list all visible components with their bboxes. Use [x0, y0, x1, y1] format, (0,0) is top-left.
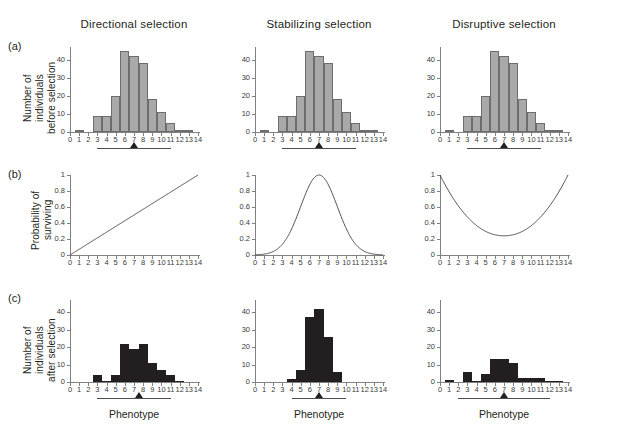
y-tick-label: 10: [416, 361, 435, 369]
x-tick-label: 14: [378, 136, 388, 144]
plot-b3: 0123456789101112131400.20.40.60.81: [440, 175, 568, 255]
plot-c1: 01234567891011121314010203040: [70, 300, 198, 382]
y-tick-label: 0.4: [231, 219, 250, 227]
y-tick: [67, 132, 70, 133]
bar: [287, 379, 296, 382]
bar: [545, 381, 554, 382]
bar: [499, 359, 508, 382]
y-tick: [67, 312, 70, 313]
bar: [527, 378, 536, 382]
ylabel-line: Number of: [22, 300, 34, 400]
bar: [518, 99, 527, 132]
bar: [296, 96, 305, 132]
bar: [120, 51, 129, 132]
bar: [342, 112, 351, 132]
y-tick-label: 10: [46, 110, 65, 118]
y-axis: [255, 300, 256, 382]
bar: [148, 363, 157, 382]
bar: [333, 99, 342, 132]
x-tick-label: 14: [193, 259, 203, 267]
y-tick: [67, 60, 70, 61]
bar: [157, 370, 166, 382]
y-tick: [67, 78, 70, 79]
y-tick: [437, 132, 440, 133]
y-tick-label: 0.6: [231, 203, 250, 211]
bar: [463, 372, 472, 382]
bar: [351, 123, 360, 132]
y-tick: [252, 382, 255, 383]
y-tick-label: 30: [416, 74, 435, 82]
x-tick-label: 14: [563, 136, 573, 144]
bar: [93, 375, 102, 382]
bar: [324, 63, 333, 132]
y-tick: [252, 365, 255, 366]
y-tick-label: 0.8: [231, 187, 250, 195]
bar: [545, 130, 554, 132]
x-tick-label: 14: [563, 259, 573, 267]
y-tick: [67, 347, 70, 348]
bar: [157, 112, 166, 132]
plot-a1: 01234567891011121314010203040: [70, 47, 198, 132]
mean-arrow-marker: [500, 392, 508, 398]
bar: [509, 63, 518, 132]
y-tick: [437, 60, 440, 61]
bar: [554, 381, 563, 382]
mean-arrow-marker: [130, 142, 138, 148]
y-tick-label: 30: [46, 326, 65, 334]
phenotype-bracket: [467, 148, 540, 149]
selection-figure: Directional selection Stabilizing select…: [0, 0, 617, 434]
phenotype-bracket: [292, 398, 347, 399]
bar: [472, 116, 481, 132]
plot-c3: 01234567891011121314010203040: [440, 300, 568, 382]
y-tick-label: 20: [46, 92, 65, 100]
plot-c2: 01234567891011121314010203040: [255, 300, 383, 382]
x-tick-label: 14: [563, 386, 573, 394]
phenotype-bracket: [282, 148, 355, 149]
bar: [472, 381, 481, 382]
column-title-stabilizing: Stabilizing selection: [231, 18, 407, 30]
y-tick: [252, 347, 255, 348]
y-tick: [437, 78, 440, 79]
y-tick-label: 20: [416, 92, 435, 100]
plot-b2: 0123456789101112131400.20.40.60.81: [255, 175, 383, 255]
bar: [296, 370, 305, 382]
bar: [499, 56, 508, 132]
y-tick: [437, 365, 440, 366]
y-tick: [252, 78, 255, 79]
y-tick-label: 0: [46, 251, 65, 259]
bar: [184, 130, 193, 132]
xlabel-stabilizing: Phenotype: [231, 408, 407, 420]
y-tick: [67, 114, 70, 115]
y-tick-label: 40: [46, 56, 65, 64]
y-tick-label: 0.4: [416, 219, 435, 227]
bar: [111, 375, 120, 382]
bar: [166, 123, 175, 132]
ylabel-line: Number of: [22, 48, 34, 148]
bar: [554, 130, 563, 132]
bar: [527, 112, 536, 132]
y-tick: [252, 96, 255, 97]
bar: [175, 130, 184, 132]
x-tick-label: 14: [193, 386, 203, 394]
bar: [305, 51, 314, 132]
x-tick-label: 14: [378, 386, 388, 394]
mean-arrow-marker: [315, 142, 323, 148]
y-tick-label: 30: [46, 74, 65, 82]
ylabel-line: individuals: [34, 300, 46, 400]
y-tick: [437, 312, 440, 313]
y-tick: [252, 330, 255, 331]
y-tick-label: 10: [416, 110, 435, 118]
bar: [481, 96, 490, 132]
y-tick-label: 20: [231, 92, 250, 100]
y-axis: [70, 47, 71, 132]
y-tick: [437, 347, 440, 348]
mean-arrow-marker: [500, 142, 508, 148]
y-tick: [437, 114, 440, 115]
panel-letter-b: (b): [8, 168, 21, 180]
y-axis: [70, 300, 71, 382]
y-tick: [67, 365, 70, 366]
bar: [93, 116, 102, 132]
y-tick: [252, 312, 255, 313]
column-title-disruptive: Disruptive selection: [416, 18, 592, 30]
survival-curve: [440, 175, 570, 257]
